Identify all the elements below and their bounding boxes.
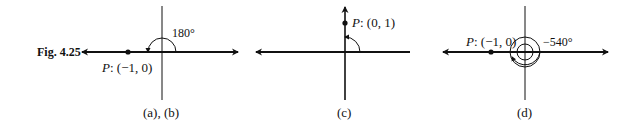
point-label-ab: P: (−1, 0) (102, 60, 152, 76)
panel-ab (82, 6, 238, 100)
point-label-c: P: (0, 1) (352, 15, 395, 31)
point-coords: : (−1, 0) (474, 34, 516, 49)
point-p (125, 49, 130, 54)
point-label-d: P: (−1, 0) (466, 34, 516, 50)
point-name: P (466, 34, 474, 49)
angle-label-d: −540° (543, 35, 573, 50)
angle-label-ab: 180° (172, 26, 195, 41)
caption-ab: (a), (b) (143, 105, 179, 121)
point-name: P (102, 60, 110, 75)
point-p (488, 49, 493, 54)
angle-arc-90 (345, 37, 360, 52)
figure-4-25: Fig. 4.25 P: (−1, 0) 180° (a), (b) P: (0… (0, 0, 625, 125)
point-coords: : (0, 1) (360, 15, 395, 30)
panel-d (443, 6, 608, 100)
figure-number: Fig. 4.25 (37, 45, 81, 60)
point-coords: : (−1, 0) (110, 60, 152, 75)
point-p (342, 20, 347, 25)
caption-c: (c) (337, 105, 351, 121)
caption-d: (d) (517, 105, 532, 121)
point-name: P (352, 15, 360, 30)
